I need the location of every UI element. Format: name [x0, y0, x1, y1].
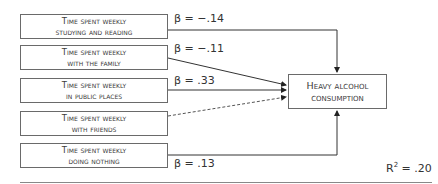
- arrow-doing-nothing: [168, 111, 337, 155]
- r2-value: = .20: [398, 162, 432, 175]
- predictor-label-line2: in public places: [66, 91, 122, 102]
- predictor-label-line1: Time spent weekly: [62, 80, 126, 91]
- r2-label: R: [386, 162, 394, 175]
- predictor-box-doing-nothing: Time spent weekly doing nothing: [20, 143, 168, 168]
- beta-public-places: β = .33: [174, 74, 215, 87]
- predictor-label-line1: Time spent weekly: [62, 16, 126, 27]
- predictor-box-family: Time spent weekly with the family: [20, 45, 168, 70]
- r-squared: R2 = .20: [386, 161, 432, 175]
- predictor-box-public-places: Time spent weekly in public places: [20, 78, 168, 103]
- outcome-label-line2: consumption: [311, 92, 364, 104]
- beta-doing-nothing: β = .13: [174, 157, 215, 170]
- beta-family: β = −.11: [174, 42, 224, 55]
- predictor-label-line1: Time spent weekly: [62, 47, 126, 58]
- beta-studying: β = −.14: [174, 12, 224, 25]
- predictor-label-line2: doing nothing: [68, 156, 119, 167]
- outcome-label-line1: Heavy alcohol: [307, 80, 369, 92]
- predictor-label-line1: Time spent weekly: [62, 113, 126, 124]
- predictor-box-friends: Time spent weekly with friends: [20, 111, 168, 136]
- predictor-label-line2: with friends: [72, 124, 117, 135]
- outcome-box-heavy-alcohol: Heavy alcohol consumption: [288, 74, 387, 109]
- arrow-friends: [168, 97, 286, 116]
- bottom-divider: [20, 182, 432, 183]
- predictor-label-line2: with the family: [67, 58, 120, 69]
- predictor-label-line1: Time spent weekly: [62, 145, 126, 156]
- predictor-label-line2: studying and reading: [56, 27, 133, 38]
- predictor-box-studying: Time spent weekly studying and reading: [20, 14, 168, 39]
